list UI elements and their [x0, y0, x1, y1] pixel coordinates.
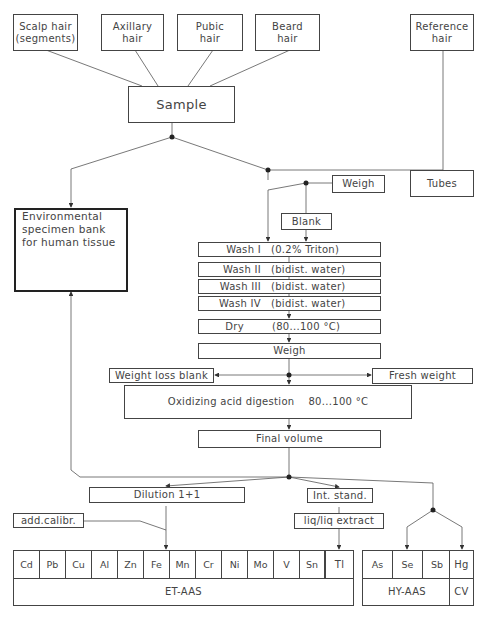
element-cell: Mo — [247, 550, 273, 579]
hg-cell: Hg — [449, 550, 474, 579]
element-cell: Se — [392, 550, 422, 579]
fresh-weight-box: Fresh weight — [372, 368, 473, 384]
blank-box: Blank — [281, 213, 332, 230]
source-reference-hair: Reference hair — [410, 14, 474, 51]
element-cell: Al — [91, 550, 117, 579]
wash-3-box: Wash III (bidist. water) — [198, 279, 381, 294]
tubes-box: Tubes — [410, 170, 474, 197]
hy-aas-label: HY-AAS — [362, 578, 452, 606]
weight-loss-blank-box: Weight loss blank — [109, 368, 214, 383]
digestion-box: Oxidizing acid digestion 80...100 °C — [124, 385, 412, 419]
element-cell: Sn — [299, 550, 325, 579]
element-cell: Cd — [13, 550, 39, 579]
element-cell: Cr — [195, 550, 221, 579]
element-cell: Ni — [221, 550, 247, 579]
source-pubic-hair: Pubic hair — [177, 14, 243, 51]
int-stand-box: Int. stand. — [307, 488, 373, 503]
dry-box: Dry (80...100 °C) — [198, 319, 381, 334]
wash-4-box: Wash IV (bidist. water) — [198, 296, 381, 311]
weigh-tubes-box: Weigh — [332, 175, 385, 193]
cv-label: CV — [449, 578, 474, 606]
element-cell: As — [362, 550, 392, 579]
element-cell: V — [273, 550, 299, 579]
element-cell: Zn — [117, 550, 143, 579]
element-cell: Sb — [422, 550, 452, 579]
wash-1-box: Wash I (0.2% Triton) — [198, 242, 381, 257]
sample-box: Sample — [128, 86, 235, 123]
element-cell: Fe — [143, 550, 169, 579]
weigh-box: Weigh — [198, 343, 381, 359]
source-axillary-hair: Axillary hair — [101, 14, 164, 51]
liq-extract-box: liq/liq extract — [294, 513, 384, 529]
element-cell: Cu — [65, 550, 91, 579]
element-cell: Mn — [169, 550, 195, 579]
specimen-bank-box: Environmental specimen bank for human ti… — [14, 208, 128, 292]
final-volume-box: Final volume — [198, 430, 381, 448]
add-calibr-box: add.calibr. — [13, 513, 84, 528]
wash-2-box: Wash II (bidist. water) — [198, 262, 381, 277]
source-beard-hair: Beard hair — [255, 14, 320, 51]
dilution-box: Dilution 1+1 — [89, 487, 245, 503]
et-aas-label: ET-AAS — [13, 578, 354, 606]
tl-cell: Tl — [325, 550, 354, 579]
element-cell: Pb — [39, 550, 65, 579]
source-scalp-hair: Scalp hair (segments) — [13, 14, 78, 51]
